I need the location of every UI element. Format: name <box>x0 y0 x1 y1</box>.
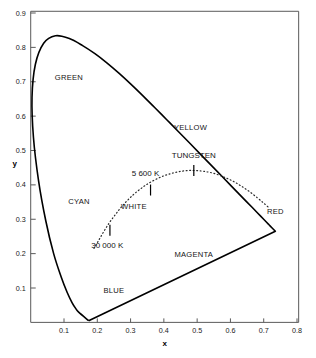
x-tick-label: 0.1 <box>59 326 69 335</box>
x-tick-label: 0.5 <box>192 326 202 335</box>
annotation-yellow: YELLOW <box>174 123 208 132</box>
x-axis-title: x <box>162 339 167 348</box>
y-tick-label: 0.2 <box>16 249 26 258</box>
y-tick-label: 0.8 <box>16 43 26 52</box>
annotation-blue: BLUE <box>104 286 125 295</box>
y-tick-label: 0.1 <box>16 284 26 293</box>
x-tick-label: 0.3 <box>126 326 136 335</box>
chart-background <box>0 0 316 358</box>
y-tick-label: 0.7 <box>16 77 26 86</box>
annotation-red: RED <box>267 207 284 216</box>
y-axis-title: y <box>12 159 17 168</box>
y-tick-label: 0.3 <box>16 215 26 224</box>
annotation-30-000-k: 30 000 K <box>91 241 124 250</box>
chart-canvas: 0.10.20.30.40.50.60.70.8 0.10.20.30.40.5… <box>0 0 316 358</box>
y-tick-label: 0.5 <box>16 146 26 155</box>
chromaticity-diagram: 0.10.20.30.40.50.60.70.8 0.10.20.30.40.5… <box>0 0 316 358</box>
x-tick-label: 0.4 <box>159 326 169 335</box>
annotation-5-600-k: 5 600 K <box>132 169 160 178</box>
annotation-tungsten: TUNGSTEN <box>172 151 216 160</box>
y-axis-tick-labels: 0.10.20.30.40.50.60.70.80.9 <box>16 9 26 293</box>
x-tick-label: 0.6 <box>225 326 235 335</box>
annotation-magenta: MAGENTA <box>174 250 213 259</box>
annotation-cyan: CYAN <box>68 197 90 206</box>
y-tick-label: 0.4 <box>16 180 26 189</box>
x-tick-label: 0.8 <box>292 326 302 335</box>
y-tick-label: 0.6 <box>16 112 26 121</box>
x-tick-label: 0.2 <box>92 326 102 335</box>
annotation-green: GREEN <box>55 73 83 82</box>
annotation-white: WHITE <box>121 202 147 211</box>
y-tick-label: 0.9 <box>16 9 26 18</box>
x-tick-label: 0.7 <box>259 326 269 335</box>
